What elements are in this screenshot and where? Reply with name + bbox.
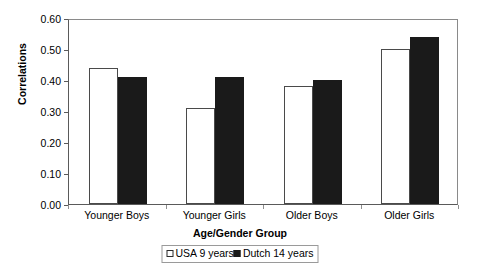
y-tick-label: 0.50 (0, 44, 68, 56)
x-tick-mark (361, 205, 362, 209)
bar (410, 37, 439, 204)
plot-area (68, 19, 458, 205)
legend-label: Dutch 14 years (243, 247, 314, 260)
bar (313, 80, 342, 204)
bar (118, 77, 147, 204)
x-category-label: Younger Boys (84, 209, 149, 221)
bar (284, 86, 313, 204)
y-tick-label: 0.00 (0, 199, 68, 211)
y-tick-label: 0.20 (0, 137, 68, 149)
x-tick-mark (263, 205, 264, 209)
x-tick-mark (458, 205, 459, 209)
legend-swatch-filled-icon (234, 250, 241, 257)
legend-label: USA 9 years (176, 247, 234, 260)
x-category-label: Older Boys (286, 209, 338, 221)
bar-chart-figure: Correlations 0.000.100.200.300.400.500.6… (0, 0, 480, 273)
y-tick-label: 0.60 (0, 13, 68, 25)
x-axis-title: Age/Gender Group (0, 227, 480, 239)
y-tick-label: 0.30 (0, 106, 68, 118)
x-tick-mark (166, 205, 167, 209)
bar (186, 108, 215, 204)
legend-entry: Dutch 14 years (234, 247, 314, 260)
x-tick-mark (68, 205, 69, 209)
bar (89, 68, 118, 204)
bar (215, 77, 244, 204)
x-category-label: Older Girls (384, 209, 434, 221)
x-category-label: Younger Girls (183, 209, 246, 221)
y-tick-label: 0.40 (0, 75, 68, 87)
y-tick-label: 0.10 (0, 168, 68, 180)
legend-swatch-open-icon (167, 250, 174, 257)
legend-entry: USA 9 years (167, 247, 234, 260)
bar (381, 49, 410, 204)
chart-legend: USA 9 yearsDutch 14 years (162, 245, 319, 263)
